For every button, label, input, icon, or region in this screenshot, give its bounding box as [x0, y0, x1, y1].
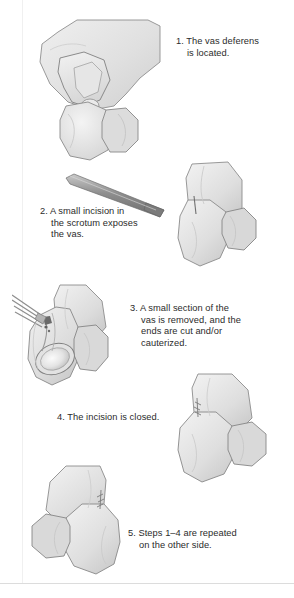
step-2-caption: 2. A small incision in the scrotum expos…: [40, 206, 175, 241]
vas-section-removed-illustration: [12, 283, 130, 391]
incision-closed-illustration: [172, 372, 280, 486]
step-5-caption: 5. Steps 1–4 are repeated on the other s…: [128, 528, 289, 551]
bottom-divider-rule: [0, 583, 294, 584]
step-3-caption: 3. A small section of the vas is removed…: [130, 303, 294, 349]
step-1-caption: 1. The vas deferens is located.: [176, 36, 294, 59]
step-4-caption: 4. The incision is closed.: [57, 412, 198, 424]
scalpel-incision-illustration: [170, 160, 262, 272]
opposite-side-repeat-illustration: [18, 462, 126, 578]
illustration-page: 1. The vas deferens is located.: [0, 0, 294, 598]
hand-isolating-vas-illustration: [22, 10, 162, 165]
